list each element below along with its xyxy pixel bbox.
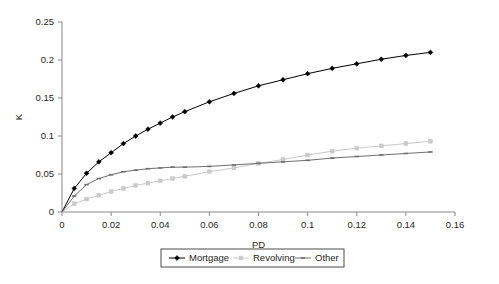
line-chart: 00.050.10.150.20.25 00.020.040.060.080.1… (0, 0, 499, 284)
x-axis-tick-labels: 00.020.040.060.080.10.120.140.16 (59, 219, 464, 230)
chart-container: 00.050.10.150.20.25 00.020.040.060.080.1… (0, 0, 499, 284)
x-tick-label: 0.04 (151, 219, 170, 230)
x-tick-label: 0 (59, 219, 64, 230)
y-tick-label: 0.05 (36, 168, 55, 179)
data-point-marker (281, 77, 286, 82)
data-point-marker (134, 184, 138, 188)
y-axis-tick-labels: 00.050.10.150.20.25 (36, 16, 55, 217)
data-point-marker (97, 193, 101, 197)
y-tick-label: 0.15 (36, 92, 55, 103)
data-point-marker (158, 121, 163, 126)
legend-label-mortgage: Mortgage (189, 252, 229, 263)
x-axis-ticks (62, 212, 455, 216)
data-point-marker (133, 134, 138, 139)
data-point-marker (171, 177, 175, 181)
x-tick-label: 0.08 (249, 219, 268, 230)
x-tick-label: 0.1 (301, 219, 314, 230)
data-point-marker (122, 187, 126, 191)
x-axis-title: PD (252, 239, 265, 250)
y-tick-label: 0.1 (41, 130, 54, 141)
y-axis-ticks (58, 22, 62, 212)
data-point-marker (109, 190, 113, 194)
data-point-marker (355, 146, 359, 150)
data-point-marker (170, 115, 175, 120)
series-mortgage (62, 50, 433, 212)
data-point-marker (232, 166, 236, 170)
data-point-marker (182, 109, 187, 114)
data-point-marker (428, 50, 433, 55)
data-point-marker (146, 127, 151, 132)
data-point-marker (85, 197, 89, 201)
data-point-marker (354, 61, 359, 66)
x-tick-label: 0.14 (397, 219, 416, 230)
x-tick-label: 0.16 (446, 219, 465, 230)
data-point-marker (158, 179, 162, 183)
data-point-marker (429, 139, 433, 143)
data-series-group (62, 50, 433, 212)
legend-label-revolving: Revolving (253, 252, 295, 263)
data-point-marker (404, 142, 408, 146)
series-revolving (62, 139, 432, 212)
data-point-marker (146, 181, 150, 185)
x-tick-label: 0.02 (102, 219, 121, 230)
series-line-revolving (62, 141, 430, 212)
y-tick-label: 0.2 (41, 54, 54, 65)
y-axis-title: K (13, 113, 24, 120)
data-point-marker (256, 83, 261, 88)
data-point-marker (330, 66, 335, 71)
x-tick-label: 0.12 (348, 219, 367, 230)
chart-legend: MortgageRevolvingOther (161, 249, 344, 267)
series-other (62, 152, 433, 212)
data-point-marker (379, 57, 384, 62)
y-tick-label: 0.25 (36, 16, 55, 27)
y-tick-label: 0 (49, 206, 54, 217)
data-point-marker (207, 170, 211, 174)
legend-label-other: Other (315, 252, 339, 263)
x-tick-label: 0.06 (200, 219, 219, 230)
data-point-marker (232, 91, 237, 96)
data-point-marker (305, 71, 310, 76)
data-point-marker (306, 153, 310, 157)
series-line-mortgage (62, 52, 430, 212)
series-line-other (62, 152, 430, 212)
data-point-marker (330, 149, 334, 153)
data-point-marker (183, 174, 187, 178)
data-point-marker (403, 53, 408, 58)
data-point-marker (239, 256, 243, 260)
data-point-marker (281, 158, 285, 162)
data-point-marker (207, 99, 212, 104)
data-point-marker (72, 202, 76, 206)
data-point-marker (379, 144, 383, 148)
